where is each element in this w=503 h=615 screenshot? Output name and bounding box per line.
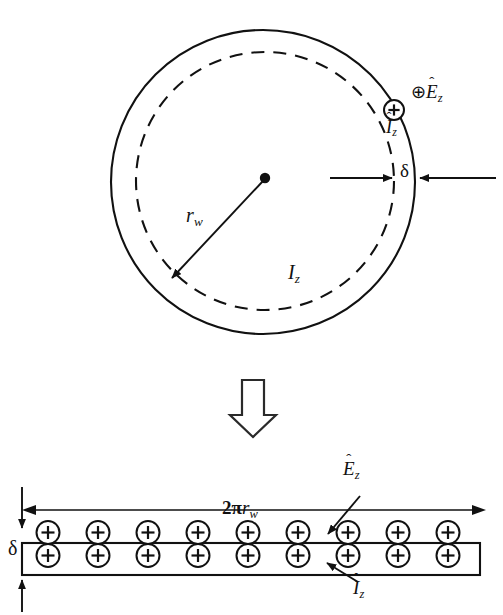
charge-marker-bottom <box>137 544 160 567</box>
charge-marker-top <box>237 521 260 544</box>
charge-marker-top <box>437 521 460 544</box>
downward-hollow-arrow-icon <box>230 380 276 437</box>
charge-marker-top <box>187 521 210 544</box>
transform-arrow-group <box>230 380 276 437</box>
charge-marker-top <box>87 521 110 544</box>
total-current-label: Iz <box>288 262 300 285</box>
strip-current-label: ̂Iz <box>353 578 364 600</box>
circumference-arrowhead-right <box>472 505 486 515</box>
circumference-label: 2πrw <box>222 498 258 520</box>
upper-surface-current-label: ̂Iz <box>386 118 397 139</box>
charge-marker-bottom <box>87 544 110 567</box>
charge-marker-bottom <box>337 544 360 567</box>
charge-marker-top <box>37 521 60 544</box>
strip-field-label: ̂Ez <box>343 459 360 481</box>
charge-marker-top <box>137 521 160 544</box>
charge-marker-bottom <box>187 544 210 567</box>
plus-charge-icon: ⊕ <box>411 82 426 102</box>
charge-marker-bottom <box>37 544 60 567</box>
charge-marker-top <box>337 521 360 544</box>
charge-marker-bottom <box>387 544 410 567</box>
upper-thickness-label: δ <box>400 161 409 180</box>
charge-marker-bottom <box>237 544 260 567</box>
radius-arrow <box>172 181 263 278</box>
charge-marker-top <box>387 521 410 544</box>
strip-thickness-label: δ <box>8 538 17 558</box>
charge-marker-bottom <box>437 544 460 567</box>
charge-marker-bottom <box>287 544 310 567</box>
upper-field-label: ⊕̂Ez <box>411 82 443 104</box>
charge-marker-top <box>287 521 310 544</box>
radius-label: rw <box>186 205 203 228</box>
charge-marker-group <box>37 521 460 567</box>
upper-diagram-group <box>111 30 496 334</box>
figure-container: ⊕̂Ez ̂Iz δ rw Iz 2πrw δ ̂Ez ̂Iz <box>0 0 503 615</box>
circumference-arrowhead-left <box>22 505 36 515</box>
